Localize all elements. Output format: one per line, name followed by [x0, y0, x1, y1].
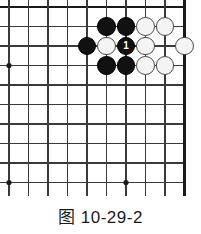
figure-caption: 图 10-29-2 — [0, 196, 201, 234]
black-stone — [97, 17, 116, 36]
white-stone — [156, 17, 175, 36]
star-point — [6, 63, 11, 68]
black-stone — [117, 17, 136, 36]
star-point — [6, 180, 11, 185]
go-board: 1 — [0, 0, 201, 196]
go-diagram-figure: 1 图 10-29-2 — [0, 0, 201, 234]
black-stone: 1 — [117, 37, 136, 56]
white-stone — [136, 56, 155, 75]
white-stone — [136, 37, 155, 56]
white-stone — [175, 37, 194, 56]
star-point — [123, 180, 128, 185]
white-stone — [156, 56, 175, 75]
black-stone — [97, 56, 116, 75]
white-stone — [97, 37, 116, 56]
black-stone — [117, 56, 136, 75]
stone-move-number: 1 — [118, 38, 135, 55]
white-stone — [136, 17, 155, 36]
